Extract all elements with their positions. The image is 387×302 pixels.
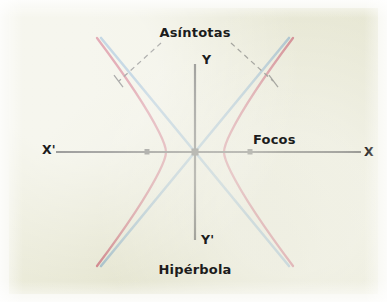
leader-line-left xyxy=(119,43,161,81)
axes xyxy=(56,64,361,240)
axis-y-negative-label: Y' xyxy=(201,232,214,247)
axis-y-positive-label: Y xyxy=(202,52,211,67)
hyperbola-plot xyxy=(9,8,378,294)
axis-x-positive-label: X xyxy=(364,144,374,159)
focus-left-marker xyxy=(145,149,150,155)
leader-tick-left xyxy=(114,75,123,87)
leader-line-right xyxy=(231,43,273,81)
figure-caption: Hipérbola xyxy=(158,262,231,277)
hyperbola-figure: Asíntotas Focos Y Y' X X' Hipérbola xyxy=(0,0,387,302)
origin-marker xyxy=(192,149,199,156)
axis-x-negative-label: X' xyxy=(42,142,56,157)
asymptotes-label: Asíntotas xyxy=(159,25,230,40)
foci-label: Focos xyxy=(253,132,296,147)
leader-tick-right xyxy=(269,75,278,87)
figure-panel xyxy=(9,8,378,294)
focus-right-marker xyxy=(248,149,253,155)
